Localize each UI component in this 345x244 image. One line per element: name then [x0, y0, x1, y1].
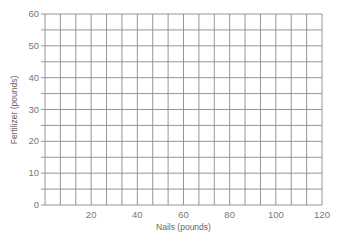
x-tick-label: 80	[215, 209, 245, 220]
y-tick-label: 30	[15, 104, 39, 115]
x-axis-label: Nails (pounds)	[45, 222, 322, 232]
x-tick-label: 100	[261, 209, 291, 220]
y-tick-label: 20	[15, 135, 39, 146]
y-tick-label: 60	[15, 8, 39, 19]
chart: Fertilizer (pounds) 0102030405060 204060…	[0, 0, 345, 244]
y-tick-label: 0	[15, 199, 39, 210]
y-tick-label: 50	[15, 40, 39, 51]
x-tick-label: 60	[169, 209, 199, 220]
x-tick-label: 40	[122, 209, 152, 220]
x-tick-label: 120	[307, 209, 337, 220]
y-tick-label: 10	[15, 167, 39, 178]
x-tick-label: 20	[76, 209, 106, 220]
plot-grid	[0, 0, 345, 244]
y-tick-label: 40	[15, 72, 39, 83]
